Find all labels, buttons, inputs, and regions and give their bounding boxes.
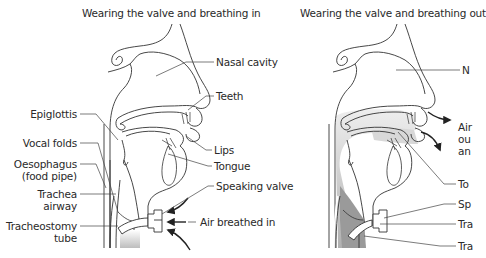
label-airway: airway [43,200,77,212]
label-speaking-valve-out: Sp [458,198,471,210]
label-air-breathed-in: Air breathed in [200,216,275,228]
label-teeth: Teeth [216,90,243,102]
panel-title-out: Wearing the valve and breathing out [300,7,486,19]
label-nasal-cavity: Nasal cavity [216,56,278,68]
label-tongue: Tongue [214,160,250,172]
label-vocal-folds: Vocal folds [23,137,77,149]
label-air-out-1: Air [458,121,472,133]
air-out-arrows [421,112,450,150]
label-speaking-valve: Speaking valve [216,180,293,192]
label-epiglottis: Epiglottis [30,108,77,120]
label-tongue-out: To [458,178,469,190]
label-food-pipe: (food pipe) [22,170,77,182]
label-tube-out: Tra [458,240,473,252]
leader-lines-in [80,62,214,226]
label-air-out-2: ou [458,133,471,145]
panel-title-in: Wearing the valve and breathing in [82,7,261,19]
label-tube: tube [54,232,77,244]
label-lips: Lips [214,144,234,156]
label-trachea: Trachea [37,188,77,200]
label-oesophagus: Oesophagus [14,158,77,170]
label-nasal-cavity-out: N [462,64,470,76]
label-trachea-out: Tra [458,218,473,230]
label-air-out-3: an [458,145,471,157]
air-in-arrows [168,198,190,250]
label-tracheostomy: Tracheostomy [6,220,77,232]
